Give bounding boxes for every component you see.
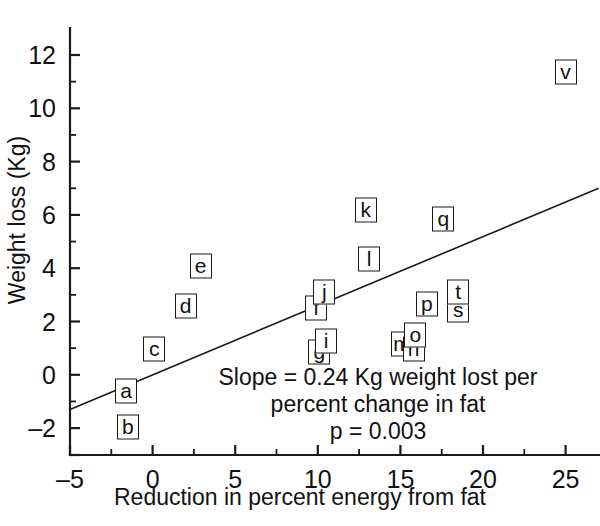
y-tick-label: 8 [42, 149, 56, 174]
annotation-line-1: Slope = 0.24 Kg weight lost per [218, 364, 537, 391]
annotation-line-3: p = 0.003 [218, 418, 537, 445]
y-axis-title: Weight loss (Kg) [6, 136, 29, 304]
y-tick-label: 6 [42, 202, 56, 227]
data-point-marker-p: p [416, 292, 438, 317]
data-point-marker-t: t [447, 280, 469, 305]
data-point-marker-a: a [115, 378, 137, 403]
y-tick-label: 10 [28, 96, 56, 121]
data-point-marker-j: j [313, 280, 335, 305]
data-point-marker-v: v [555, 60, 577, 85]
annotation-line-2: percent change in fat [218, 391, 537, 418]
y-tick-label: –2 [28, 416, 56, 441]
data-point-marker-k: k [355, 197, 377, 222]
data-point-marker-c: c [143, 337, 165, 362]
data-point-marker-l: l [358, 246, 380, 271]
x-axis-title: Reduction in percent energy from fat [114, 486, 486, 509]
data-point-marker-b: b [117, 414, 139, 439]
data-point-marker-d: d [175, 293, 197, 318]
scatter-plot-figure: –50510152025–2024681012 abcdefgijklmnopq… [0, 0, 600, 526]
x-tick-label: 25 [552, 467, 580, 492]
y-tick-label: 12 [28, 43, 56, 68]
data-point-marker-e: e [190, 253, 212, 278]
slope-annotation: Slope = 0.24 Kg weight lost per percent … [218, 364, 537, 445]
data-point-marker-q: q [432, 206, 454, 231]
y-tick-label: 4 [42, 256, 56, 281]
plot-canvas [0, 0, 600, 526]
data-point-marker-o: o [404, 322, 426, 347]
y-tick-label: 2 [42, 309, 56, 334]
x-tick-label: –5 [56, 467, 84, 492]
y-tick-label: 0 [42, 362, 56, 387]
data-point-marker-i: i [315, 329, 337, 354]
